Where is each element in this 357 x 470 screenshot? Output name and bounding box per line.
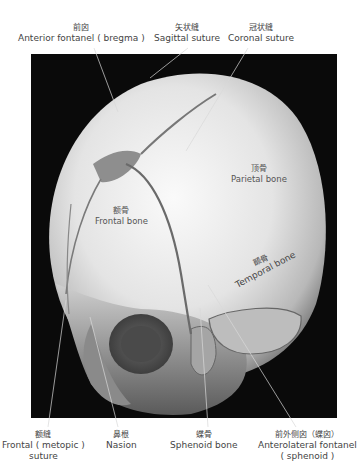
label-frontal-bone: 额骨 Frontal bone	[95, 206, 148, 226]
label-nasion: 鼻根 Nasion	[106, 429, 137, 451]
label-sphenoid-bone: 蝶骨 Sphenoid bone	[170, 429, 237, 451]
label-anterolateral-fontanel: 前外侧囟（蝶囟） Anterolateral fontanel ( spheno…	[258, 429, 357, 462]
label-sagittal-suture: 矢状缝 Sagittal suture	[154, 22, 220, 44]
label-parietal-bone: 顶骨 Parietal bone	[231, 164, 287, 184]
skull-ct-image: W/L	[31, 54, 337, 418]
label-coronal-suture: 冠状缝 Coronal suture	[228, 22, 294, 44]
label-anterior-fontanel: 前囟 Anterior fontanel ( bregma )	[18, 22, 145, 44]
label-metopic-suture: 额缝 Frontal ( metopic ) suture	[2, 429, 85, 462]
skull-illustration	[31, 54, 337, 418]
